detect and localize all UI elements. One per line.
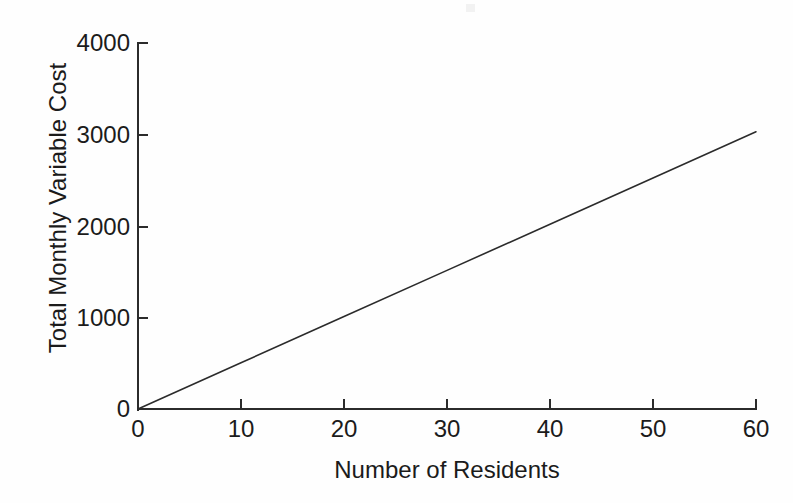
x-axis-tick <box>137 399 139 408</box>
x-axis-tick <box>755 399 757 408</box>
x-axis-tick-label: 0 <box>103 415 173 443</box>
x-axis-tick <box>240 399 242 408</box>
y-axis-tick <box>139 317 148 319</box>
y-axis-tick <box>139 42 148 44</box>
x-axis-line <box>137 408 757 410</box>
x-axis-title: Number of Residents <box>137 457 757 483</box>
y-axis-tick <box>139 134 148 136</box>
x-axis-tick <box>652 399 654 408</box>
x-axis-tick-label: 60 <box>721 415 791 443</box>
x-axis-tick-label: 30 <box>412 415 482 443</box>
x-axis-tick-label: 20 <box>309 415 379 443</box>
y-axis-tick <box>139 226 148 228</box>
x-axis-tick <box>549 399 551 408</box>
x-axis-tick-label: 40 <box>515 415 585 443</box>
chart-figure: 4000 3000 2000 1000 0 0 10 20 30 40 50 6… <box>0 0 793 503</box>
y-axis-tick <box>139 408 148 410</box>
y-axis-title: Total Monthly Variable Cost <box>45 43 71 373</box>
x-axis-tick <box>343 399 345 408</box>
x-axis-tick-label: 50 <box>618 415 688 443</box>
x-axis-tick <box>446 399 448 408</box>
x-axis-tick-label: 10 <box>206 415 276 443</box>
scan-artifact <box>466 4 475 12</box>
